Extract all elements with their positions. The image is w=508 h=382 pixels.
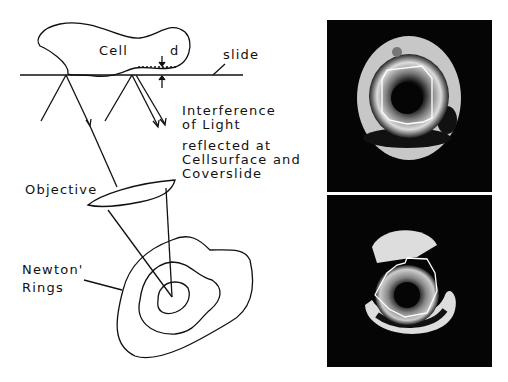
interference-label-line5: Coverslide bbox=[182, 166, 262, 181]
slide-leader bbox=[213, 64, 225, 75]
newton-leader bbox=[84, 280, 122, 290]
newton-ring-inner bbox=[158, 282, 190, 314]
micrograph-top bbox=[327, 20, 492, 192]
newton-label-line1: Newton' bbox=[22, 262, 84, 277]
slide-label: slide bbox=[223, 47, 259, 62]
interference-label-line2: of Light bbox=[182, 117, 241, 132]
newton-ring-outer bbox=[117, 237, 252, 358]
micrograph-bottom bbox=[327, 195, 492, 367]
d-label: d bbox=[170, 43, 179, 58]
interference-label-line1: Interference bbox=[182, 103, 276, 118]
interference-label-line3: reflected at bbox=[182, 138, 271, 153]
objective-label: Objective bbox=[25, 182, 97, 197]
interference-label-line4: Cellsurface and bbox=[182, 152, 301, 167]
newton-ring-middle bbox=[139, 262, 220, 334]
interference-reflection-diagram: Cell d slide Interference of Light refle… bbox=[0, 0, 320, 382]
newton-label-line2: Rings bbox=[22, 280, 64, 295]
objective-lens bbox=[88, 180, 175, 206]
cell-label: Cell bbox=[99, 43, 128, 58]
